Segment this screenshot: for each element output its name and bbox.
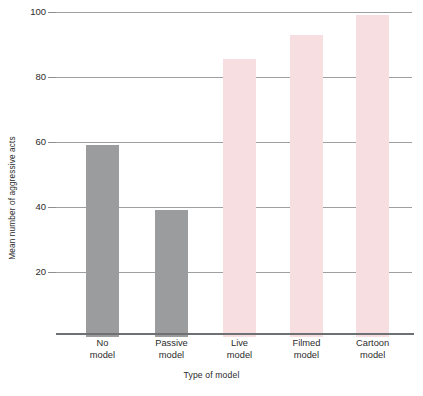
x-tick-label-line1: Filmed bbox=[292, 338, 320, 348]
bar-passive-model bbox=[155, 210, 188, 337]
y-axis-title: Mean number of aggressive acts bbox=[0, 0, 24, 396]
x-tick-label-line1: Live bbox=[231, 338, 248, 348]
y-tick-mark-60 bbox=[48, 142, 56, 143]
bar-filmed-model bbox=[290, 35, 323, 337]
x-tick-label-line2: model bbox=[204, 350, 276, 362]
x-tick-label-filmed-model: Filmedmodel bbox=[270, 338, 342, 361]
y-tick-mark-80 bbox=[48, 77, 56, 78]
bar-chart-figure: Mean number of aggressive acts 204060801… bbox=[0, 0, 423, 396]
x-tick-label-line2: model bbox=[136, 350, 208, 362]
x-tick-label-line2: model bbox=[270, 350, 342, 362]
x-tick-label-line1: No bbox=[97, 338, 109, 348]
x-tick-label-live-model: Livemodel bbox=[204, 338, 276, 361]
x-tick-label-passive-model: Passivemodel bbox=[136, 338, 208, 361]
x-axis-line bbox=[56, 333, 414, 335]
x-tick-label-line2: model bbox=[66, 350, 138, 362]
x-tick-label-line1: Cartoon bbox=[356, 338, 389, 348]
x-tick-label-cartoon-model: Cartoonmodel bbox=[337, 338, 409, 361]
x-tick-label-line2: model bbox=[337, 350, 409, 362]
bar-cartoon-model bbox=[356, 15, 389, 337]
y-tick-label-80: 80 bbox=[6, 71, 46, 82]
bar-no-model bbox=[86, 145, 119, 337]
plot-area bbox=[56, 12, 412, 337]
y-tick-label-100: 100 bbox=[6, 6, 46, 17]
x-tick-label-no-model: Nomodel bbox=[66, 338, 138, 361]
x-tick-label-line1: Passive bbox=[155, 338, 188, 348]
y-tick-mark-20 bbox=[48, 272, 56, 273]
y-tick-mark-40 bbox=[48, 207, 56, 208]
x-tick-labels: NomodelPassivemodelLivemodelFilmedmodelC… bbox=[56, 338, 412, 372]
x-axis-title: Type of model bbox=[0, 370, 423, 380]
y-tick-mark-100 bbox=[48, 12, 56, 13]
y-tick-label-60: 60 bbox=[6, 136, 46, 147]
y-tick-label-40: 40 bbox=[6, 201, 46, 212]
y-tick-label-20: 20 bbox=[6, 266, 46, 277]
bars-layer bbox=[56, 12, 412, 337]
bar-live-model bbox=[223, 59, 256, 337]
